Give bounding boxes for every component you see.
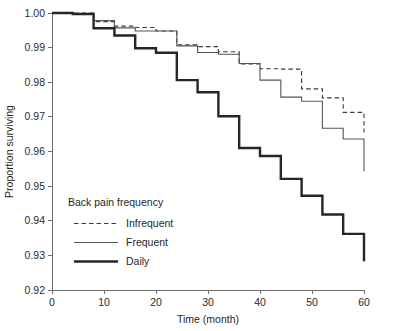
y-tick-label: 1.00 xyxy=(25,7,46,19)
y-tick-label: 0.97 xyxy=(25,110,46,122)
x-axis-group: 0102030405060 xyxy=(49,290,370,308)
series-line-infrequent xyxy=(52,13,364,132)
y-axis-group: 0.920.930.940.950.960.970.980.991.00 xyxy=(25,7,52,296)
y-tick-label: 0.96 xyxy=(25,145,46,157)
y-axis-ticks: 0.920.930.940.950.960.970.980.991.00 xyxy=(25,7,52,296)
legend-label-frequent: Frequent xyxy=(126,236,168,248)
x-tick-label: 20 xyxy=(150,296,162,308)
y-axis-title: Proportion surviving xyxy=(3,105,15,198)
chart-legend: Back pain frequency InfrequentFrequentDa… xyxy=(68,196,173,267)
legend-label-infrequent: Infrequent xyxy=(126,217,173,229)
x-axis-ticks: 0102030405060 xyxy=(49,290,370,308)
y-tick-label: 0.98 xyxy=(25,76,46,88)
x-tick-label: 40 xyxy=(254,296,266,308)
survival-chart: 0.920.930.940.950.960.970.980.991.00 010… xyxy=(0,0,404,331)
legend-entries: InfrequentFrequentDaily xyxy=(74,217,173,267)
y-tick-label: 0.95 xyxy=(25,180,46,192)
x-tick-label: 50 xyxy=(306,296,318,308)
legend-title: Back pain frequency xyxy=(68,196,164,208)
top-cropped-text-fragment xyxy=(56,0,356,9)
y-tick-label: 0.93 xyxy=(25,249,46,261)
x-tick-label: 10 xyxy=(98,296,110,308)
x-tick-label: 60 xyxy=(358,296,370,308)
legend-label-daily: Daily xyxy=(126,255,150,267)
figure-root: 0.920.930.940.950.960.970.980.991.00 010… xyxy=(0,0,404,331)
x-tick-label: 30 xyxy=(202,296,214,308)
x-tick-label: 0 xyxy=(49,296,55,308)
y-tick-label: 0.94 xyxy=(25,214,46,226)
y-tick-label: 0.99 xyxy=(25,41,46,53)
y-tick-label: 0.92 xyxy=(25,284,46,296)
x-axis-title: Time (month) xyxy=(177,313,239,325)
